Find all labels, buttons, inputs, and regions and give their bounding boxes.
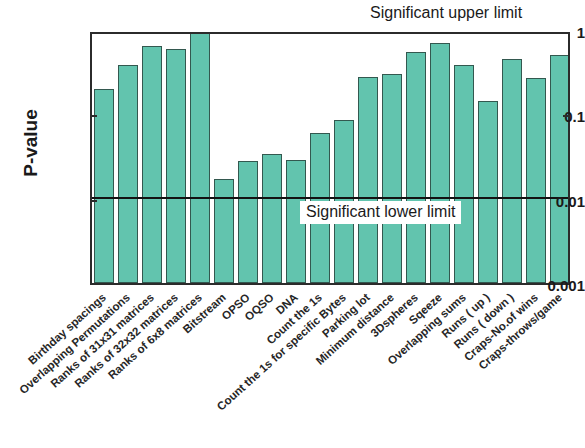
y-axis-tick-mark-right (563, 115, 570, 117)
bar (502, 59, 521, 283)
significant-lower-limit-line (92, 197, 568, 199)
y-axis-tick-label: 1 (499, 25, 585, 40)
plot-area (90, 32, 570, 285)
bar (358, 77, 377, 283)
bar (190, 32, 209, 283)
bar (118, 65, 137, 284)
bar (550, 55, 569, 283)
bar (142, 46, 161, 283)
y-axis-tick-mark (90, 200, 97, 202)
bar (454, 65, 473, 283)
bar (238, 161, 257, 283)
y-axis-tick-label: 0.01 (499, 193, 585, 208)
bar (262, 154, 281, 283)
bar (430, 43, 449, 283)
bars-layer (92, 34, 568, 283)
bar (214, 179, 233, 283)
significant-lower-limit-annotation: Significant lower limit (300, 201, 461, 224)
bar (166, 49, 185, 283)
y-axis-title: P-value (20, 88, 42, 198)
bar (478, 101, 497, 283)
bar (382, 74, 401, 283)
bar (94, 89, 113, 283)
bar (406, 52, 425, 283)
x-axis-tick-labels: Birthday spacingsOverlapping Permutation… (0, 285, 585, 448)
y-axis-tick-mark (90, 115, 97, 117)
significant-upper-limit-annotation: Significant upper limit (368, 4, 524, 22)
p-value-bar-chart: P-value Significant upper limit Signific… (0, 0, 585, 448)
y-axis-tick-label: 0.1 (499, 109, 585, 124)
